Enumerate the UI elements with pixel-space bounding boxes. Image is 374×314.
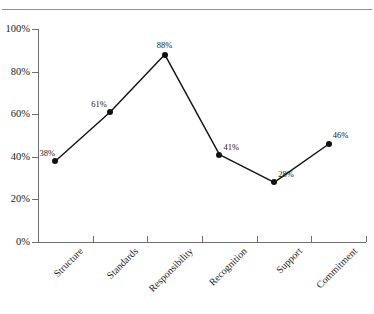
data-point-label: 28%: [278, 170, 294, 179]
chart-page: · 0%20%40%60%80%100% 38%61%88%41%28%46% …: [0, 0, 374, 314]
series-line: [56, 55, 329, 183]
data-point-label: 38%: [39, 149, 55, 158]
data-point-marker[interactable]: [326, 141, 332, 147]
line-chart: 0%20%40%60%80%100% 38%61%88%41%28%46% St…: [0, 0, 374, 314]
data-point-marker[interactable]: [162, 52, 168, 58]
data-point-label: 41%: [223, 143, 239, 152]
data-point-label: 46%: [333, 131, 349, 140]
data-point-label: 88%: [157, 41, 173, 50]
data-point-label: 61%: [91, 100, 107, 109]
